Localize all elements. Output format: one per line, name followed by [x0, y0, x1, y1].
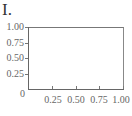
x-tick-label: 1.00 [112, 95, 130, 105]
y-tick-mark [25, 58, 28, 59]
origin-label: 0 [20, 89, 25, 99]
y-tick-mark [25, 27, 28, 28]
y-tick-label: 1.00 [7, 22, 25, 32]
x-axis-line [28, 89, 124, 90]
x-tick-label: 0.75 [90, 95, 108, 105]
chart-title: I. [2, 1, 12, 19]
x-tick-label: 0.25 [44, 95, 62, 105]
plot-area [28, 27, 124, 90]
y-tick-label: 0.25 [7, 69, 25, 79]
y-axis-line [28, 27, 29, 89]
x-tick-label: 0.50 [67, 95, 85, 105]
x-tick-mark [52, 86, 53, 89]
y-tick-label: 0.50 [7, 53, 25, 63]
y-tick-mark [25, 74, 28, 75]
x-tick-mark [99, 86, 100, 89]
y-tick-label: 0.75 [7, 38, 25, 48]
y-tick-mark [25, 43, 28, 44]
x-tick-mark [76, 86, 77, 89]
x-tick-mark [123, 86, 124, 89]
